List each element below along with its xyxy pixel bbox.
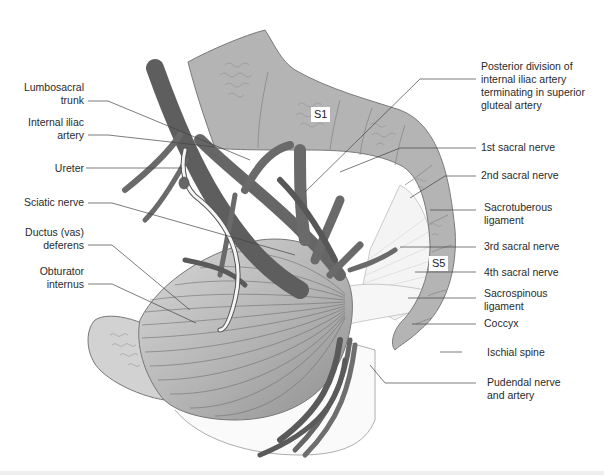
label-sciatic-nerve: Sciatic nerve (24, 196, 84, 209)
label-posterior-division: Posterior division of internal iliac art… (481, 60, 585, 112)
label-sacrotuberous-ligament: Sacrotuberous ligament (484, 201, 552, 227)
label-2nd-sacral-nerve: 2nd sacral nerve (481, 169, 559, 182)
label-ureter: Ureter (55, 162, 84, 175)
s1-tag: S1 (311, 107, 330, 122)
iliac-node (179, 177, 189, 189)
label-4th-sacral-nerve: 4th sacral nerve (484, 266, 559, 279)
label-1st-sacral-nerve: 1st sacral nerve (481, 141, 555, 154)
label-ischial-spine: Ischial spine (487, 346, 545, 359)
label-3rd-sacral-nerve: 3rd sacral nerve (484, 240, 559, 253)
label-coccyx: Coccyx (484, 317, 518, 330)
bottom-border (0, 471, 604, 475)
label-ductus-deferens: Ductus (vas) deferens (25, 226, 84, 252)
label-obturator-internus: Obturator internus (40, 265, 84, 291)
s5-tag: S5 (429, 256, 448, 271)
label-pudendal-nerve-artery: Pudendal nerve and artery (487, 376, 561, 402)
label-lumbosacral-trunk: Lumbosacral trunk (24, 81, 84, 107)
label-internal-iliac-artery: Internal iliac artery (28, 116, 84, 142)
label-sacrospinous-ligament: Sacrospinous ligament (484, 287, 548, 313)
